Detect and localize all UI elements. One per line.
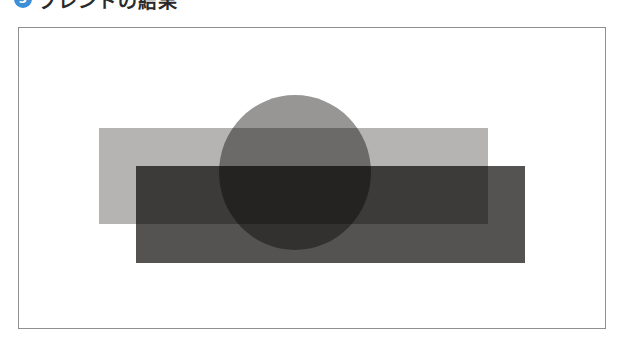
gray-circle bbox=[219, 95, 371, 250]
blend-illustration bbox=[0, 0, 623, 347]
